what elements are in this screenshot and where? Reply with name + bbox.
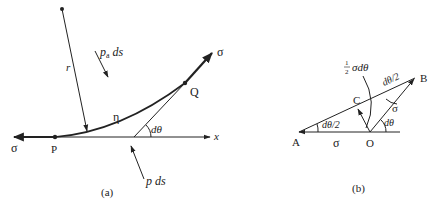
svg-text:σdθ: σdθ bbox=[352, 61, 369, 73]
figure-a: r pa ds x σ P η dθ Q σ p ds (a) bbox=[11, 7, 224, 199]
sigma-right-label: σ bbox=[217, 45, 224, 59]
point-q-label: Q bbox=[190, 85, 199, 99]
sigma-base-label: σ bbox=[333, 136, 340, 150]
svg-text:2: 2 bbox=[345, 68, 349, 76]
sigma-left-label: σ bbox=[11, 141, 18, 155]
oc-arrow bbox=[358, 109, 370, 132]
point-b-label: B bbox=[420, 72, 427, 84]
dtheta-label: dθ bbox=[151, 123, 163, 135]
membrane-curve bbox=[55, 83, 185, 137]
membrane-stress-diagram: r pa ds x σ P η dθ Q σ p ds (a) bbox=[0, 0, 434, 208]
p-ds-arrow bbox=[131, 146, 144, 179]
point-p-label: P bbox=[51, 143, 57, 155]
dtheta-half-left-label: dθ/2 bbox=[322, 119, 340, 130]
half-sigma-dtheta-label: 1 2 σdθ bbox=[344, 59, 369, 76]
angle-arc-a bbox=[317, 124, 318, 132]
svg-text:1: 1 bbox=[345, 59, 349, 67]
figure-a-caption: (a) bbox=[101, 186, 114, 199]
pa-ds-label: pa ds bbox=[99, 45, 124, 60]
point-c-label: C bbox=[353, 94, 360, 106]
x-axis-label: x bbox=[213, 130, 219, 142]
figure-b: A σ O B σ C 1 2 σdθ dθ/2 dθ dθ/2 (b) bbox=[292, 59, 427, 195]
eta-label: η bbox=[113, 110, 119, 124]
sigma-right-arrow bbox=[185, 53, 212, 83]
dtheta-label-b: dθ bbox=[384, 117, 394, 128]
figure-b-caption: (b) bbox=[352, 182, 365, 195]
radius-label: r bbox=[66, 61, 71, 73]
point-a-label: A bbox=[292, 136, 300, 148]
point-q bbox=[183, 81, 187, 85]
point-o-label: O bbox=[366, 137, 374, 149]
dtheta-half-top-label: dθ/2 bbox=[380, 70, 401, 87]
p-ds-label: p ds bbox=[145, 174, 166, 188]
